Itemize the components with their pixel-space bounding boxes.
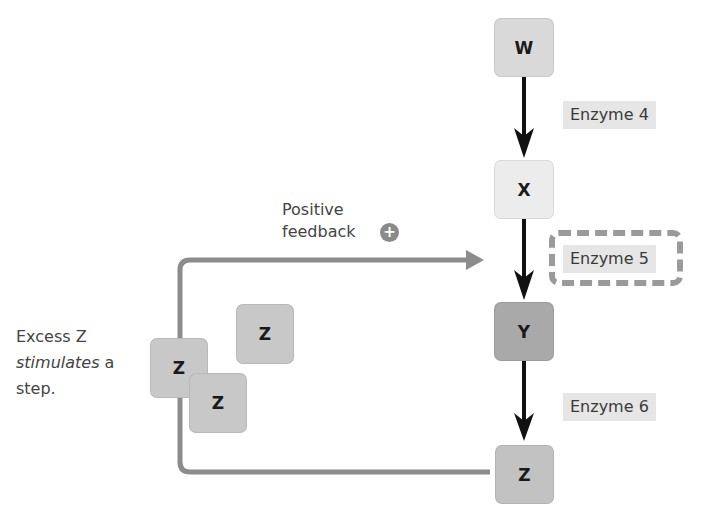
feedback-arrow: [180, 250, 490, 472]
caption-line3: step.: [16, 376, 114, 402]
molecule-w-label: W: [515, 38, 534, 58]
enzyme-5-label: Enzyme 5: [563, 245, 656, 273]
excess-z-molecule: Z: [236, 304, 294, 364]
feedback-label-line1: Positive: [282, 199, 356, 221]
molecule-x: X: [494, 160, 554, 219]
molecule-z-product: Z: [495, 445, 554, 504]
enzyme-4-label: Enzyme 4: [563, 101, 656, 129]
plus-icon: +: [380, 223, 399, 242]
feedback-label-line2: feedback: [282, 221, 356, 243]
molecule-y: Y: [494, 302, 554, 361]
enzyme-6-label: Enzyme 6: [563, 393, 656, 421]
excess-z-caption: Excess Z stimulates a step.: [16, 324, 114, 402]
excess-z-label: Z: [259, 324, 271, 344]
molecule-x-label: X: [517, 180, 530, 200]
pathway-arrow-w-x: [514, 76, 534, 158]
caption-rest: a: [99, 353, 114, 372]
molecule-y-label: Y: [518, 322, 530, 342]
excess-z-label: Z: [173, 358, 185, 378]
pathway-arrow-x-y: [514, 218, 534, 300]
pathway-arrow-y-z: [514, 360, 534, 441]
molecule-w: W: [494, 18, 554, 77]
caption-line1: Excess Z: [16, 324, 114, 350]
caption-italic: stimulates: [16, 353, 99, 372]
molecule-z-product-label: Z: [518, 465, 530, 485]
excess-z-molecule: Z: [189, 373, 247, 433]
excess-z-label: Z: [212, 393, 224, 413]
feedback-label: Positive feedback: [282, 199, 356, 243]
